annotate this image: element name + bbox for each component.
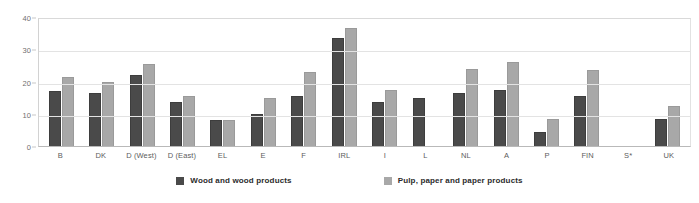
bar-group <box>41 19 81 146</box>
bar-group <box>284 19 324 146</box>
bar-group <box>648 19 688 146</box>
bar-group <box>445 19 485 146</box>
x-tick-label: F <box>283 149 324 167</box>
bar <box>668 106 680 146</box>
bar <box>62 77 74 146</box>
bar-group <box>203 19 243 146</box>
x-tick-label: NL <box>446 149 487 167</box>
x-tick-label: L <box>405 149 446 167</box>
bar <box>210 120 222 146</box>
bar-group <box>324 19 364 146</box>
y-tick-label: 10 <box>22 110 31 119</box>
x-tick-label: E <box>243 149 284 167</box>
bar <box>130 75 142 146</box>
x-tick-label: EL <box>202 149 243 167</box>
bar <box>170 102 182 146</box>
x-tick-label: DK <box>81 149 122 167</box>
bar <box>385 90 397 146</box>
bar <box>102 82 114 147</box>
legend-swatch-icon <box>176 177 184 185</box>
y-tick-label: 40 <box>22 14 31 23</box>
gridline <box>39 84 690 85</box>
x-axis-labels: BDKD (West)D (East)ELEFIRLILNLAPFINS*UK <box>38 149 691 167</box>
x-tick-label: B <box>40 149 81 167</box>
x-tick-label: IRL <box>324 149 365 167</box>
x-tick-label: I <box>365 149 406 167</box>
y-tick-mark <box>32 114 36 115</box>
bar <box>494 90 506 146</box>
bar-group <box>607 19 647 146</box>
bar-group <box>365 19 405 146</box>
bar <box>251 114 263 146</box>
bar <box>574 96 586 146</box>
x-tick-label: D (West) <box>121 149 162 167</box>
bar <box>223 120 235 146</box>
bar-group <box>526 19 566 146</box>
x-tick-label: P <box>527 149 568 167</box>
bar-group <box>81 19 121 146</box>
bar-group <box>243 19 283 146</box>
legend-label: Pulp, paper and paper products <box>398 176 523 185</box>
bar <box>372 102 384 146</box>
bar <box>534 132 546 147</box>
legend-swatch-icon <box>384 177 392 185</box>
bar-group <box>122 19 162 146</box>
bar-group <box>405 19 445 146</box>
y-tick-mark <box>32 82 36 83</box>
bar-group <box>486 19 526 146</box>
x-tick-label: FIN <box>567 149 608 167</box>
x-tick-label: S* <box>608 149 649 167</box>
y-tick-mark <box>32 50 36 51</box>
bar <box>587 70 599 146</box>
legend-label: Wood and wood products <box>190 176 291 185</box>
bar <box>49 91 61 146</box>
plot-wrapper: 010203040 BDKD (West)D (East)ELEFIRLILNL… <box>0 0 699 170</box>
legend-item: Wood and wood products <box>176 176 291 185</box>
bar-group <box>162 19 202 146</box>
bar <box>89 93 101 146</box>
bar <box>547 119 559 146</box>
bar-group <box>567 19 607 146</box>
bar <box>466 69 478 146</box>
bar <box>507 62 519 146</box>
bars-layer <box>39 19 690 146</box>
y-tick-label: 20 <box>22 78 31 87</box>
y-tick-mark <box>32 18 36 19</box>
bar <box>183 96 195 146</box>
x-tick-label: A <box>486 149 527 167</box>
bar <box>291 96 303 146</box>
y-tick-mark <box>32 147 36 148</box>
y-axis: 010203040 <box>0 0 38 170</box>
bar-chart: 010203040 BDKD (West)D (East)ELEFIRLILNL… <box>0 0 699 203</box>
bar <box>345 28 357 146</box>
bar <box>332 38 344 146</box>
gridline <box>39 116 690 117</box>
bar <box>453 93 465 146</box>
x-tick-label: D (East) <box>162 149 203 167</box>
plot-area <box>38 18 691 147</box>
y-tick-label: 0 <box>27 143 31 152</box>
legend-item: Pulp, paper and paper products <box>384 176 523 185</box>
bar <box>264 98 276 146</box>
bar <box>655 119 667 146</box>
x-tick-label: UK <box>648 149 689 167</box>
gridline <box>39 51 690 52</box>
bar <box>413 98 425 146</box>
bar <box>143 64 155 146</box>
y-tick-label: 30 <box>22 46 31 55</box>
chart-legend: Wood and wood productsPulp, paper and pa… <box>0 176 699 185</box>
